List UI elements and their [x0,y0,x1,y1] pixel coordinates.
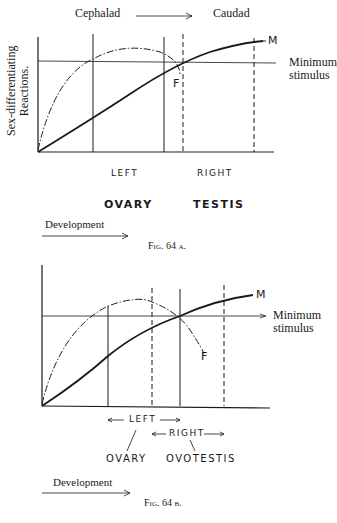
threshold-label-line2: stimulus [273,322,321,335]
development-label: Development [53,476,112,488]
figure-caption-b: Fig. 64 b. [144,497,182,508]
development-arrow-icon [42,490,130,496]
curve-f-label: F [201,350,209,363]
curve-m-label: M [256,288,267,301]
region-left-label: LEFT [129,414,156,424]
organ-ovary-label: OVARY [106,453,147,464]
threshold-label: Minimum stimulus [273,309,321,335]
region-right-label: RIGHT [169,428,205,438]
organ-ovotestis-label: OVOTESTIS [166,453,236,464]
